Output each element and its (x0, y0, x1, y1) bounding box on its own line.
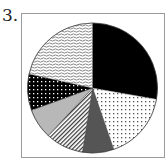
pie-slice-solid-black (93, 23, 158, 99)
pie-chart (0, 0, 167, 168)
pie-slices (27, 23, 157, 153)
